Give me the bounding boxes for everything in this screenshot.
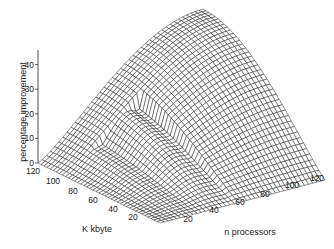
- n-processors-tick-label: 80: [260, 189, 270, 199]
- k-kbyte-tick-label: 100: [46, 176, 60, 186]
- k-kbyte-tick-label: 80: [68, 186, 78, 196]
- n-processors-tick-label: 20: [183, 214, 193, 224]
- x-axis-label: n processors: [224, 227, 276, 237]
- n-processors-tick-label: 40: [209, 205, 219, 215]
- surface-plot: 010203040 12010080604020 20406080100120 …: [0, 0, 334, 249]
- n-processors-tick-label: 100: [285, 180, 299, 190]
- n-processors-tick-label: 120: [310, 173, 324, 183]
- k-kbyte-tick-label: 60: [88, 195, 98, 205]
- k-kbyte-tick-label: 40: [108, 204, 118, 214]
- y-axis-label: K kbyte: [82, 224, 112, 234]
- surface-mesh: [38, 9, 325, 223]
- k-kbyte-tick-label: 120: [26, 166, 40, 176]
- z-axis-label: percentage improvement: [18, 62, 28, 162]
- k-kbyte-tick-label: 20: [128, 212, 138, 222]
- n-processors-tick-label: 60: [235, 197, 245, 207]
